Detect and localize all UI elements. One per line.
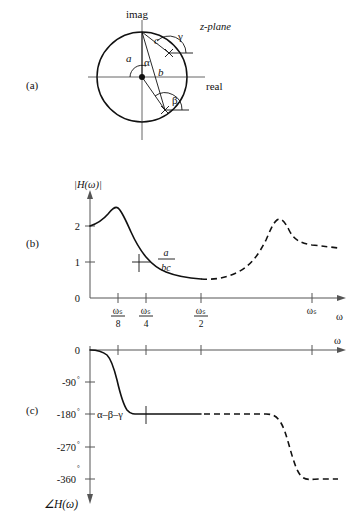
magnitude-xtick-label-3: ωₛ [307,306,317,316]
vector-origin-to-lower-pole [142,77,165,110]
magnitude-curve-dashed [201,219,338,279]
magnitude-annotation-den: bc [161,262,171,273]
phase-ytick-label-0: 0 [75,345,80,356]
phase-annotation-label: α–β–γ [97,409,123,420]
phase-ytick-label-90: -90 ° [62,375,80,388]
magnitude-ytick-label-1: 1 [75,257,80,268]
phase-ytick-270-value: -270 [57,442,76,453]
phase-x-axis-label: ω [334,336,341,346]
zplane-diagram: imag real z-plane a b c α β γ [0,0,358,175]
magnitude-plot: 0 1 2 |H(ω)| ω ωₛ 8 ωₛ 4 ωₛ 2 ωₛ a bc [0,180,358,330]
magnitude-curve-solid [90,207,201,279]
phase-curve-dashed [204,414,338,479]
vector-b-label: b [158,66,164,78]
magnitude-xtick-0-num: ωₛ [113,306,123,316]
magnitude-x-axis-label: ω [336,311,343,322]
angle-alpha-label: α [144,56,150,68]
phase-ytick-360-degree: ° [77,464,80,472]
phase-ytick-label-270: -270 ° [57,440,80,453]
magnitude-xtick-2-num: ωₛ [196,306,206,316]
magnitude-xtick-0-den: 8 [116,319,121,329]
magnitude-annotation-fraction: a bc [158,247,175,273]
vector-a-label: a [126,52,132,64]
angle-beta-label: β [172,94,178,106]
phase-curve-solid [90,350,201,414]
phase-y-axis-arrow [87,494,93,504]
magnitude-ytick-label-2: 2 [75,221,80,232]
magnitude-y-axis-arrow [87,190,93,199]
phase-ytick-label-180: -180 ° [57,407,80,420]
magnitude-x-axis-arrow [337,295,346,301]
angle-gamma-label: γ [177,30,183,42]
magnitude-y-axis-label: |H(ω)| [74,180,102,191]
magnitude-xtick-label-2: ωₛ 2 [194,306,208,329]
magnitude-xtick-1-num: ωₛ [141,306,151,316]
phase-ytick-label-360: -360 ° [57,464,80,485]
phase-ytick-360-value: -360 [57,474,76,485]
phase-ytick-180-degree: ° [77,407,80,415]
phase-plot: 0 -90 ° -180 ° -270 ° -360 ° α–β–γ ω ∠H(… [0,336,358,524]
zplane-title: z-plane [199,21,231,32]
vector-c-label: c [154,34,159,46]
phase-x-axis-arrow [337,347,346,353]
magnitude-xtick-label-0: ωₛ 8 [111,306,125,329]
phase-ytick-90-degree: ° [77,375,80,383]
magnitude-annotation-marker [132,254,150,272]
magnitude-xtick-label-1: ωₛ 4 [139,306,153,329]
imag-axis-label: imag [126,8,148,20]
phase-ytick-90-value: -90 [62,377,76,388]
magnitude-ytick-label-0: 0 [75,293,80,304]
figure-container: (a) (b) (c) [0,0,358,524]
phase-ytick-180-value: -180 [57,409,76,420]
magnitude-xtick-1-den: 4 [144,319,149,329]
phase-ytick-270-degree: ° [77,440,80,448]
magnitude-xtick-2-den: 2 [199,319,204,329]
magnitude-annotation-num: a [164,247,169,258]
real-axis-label: real [206,80,222,92]
phase-y-axis-label: ∠H(ω) [44,498,78,511]
